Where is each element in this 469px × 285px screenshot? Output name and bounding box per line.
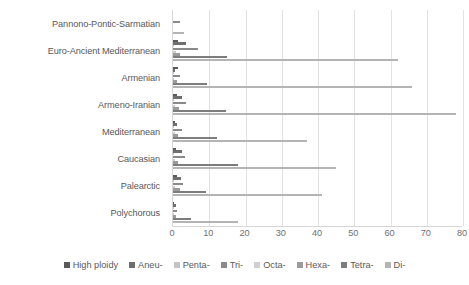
category-label: Euro-Ancient Mediterranean — [0, 37, 166, 64]
x-axis-tick-labels: 01020304050607080 — [172, 228, 462, 244]
bar-row — [173, 221, 463, 223]
bar-group — [173, 10, 463, 37]
bar-row — [173, 59, 463, 61]
x-tick-label: 0 — [169, 228, 174, 238]
legend-label: Hexa- — [306, 260, 331, 270]
x-tick-label: 40 — [312, 228, 322, 238]
legend-label: Penta- — [183, 260, 210, 270]
legend-item[interactable]: Di- — [385, 260, 406, 270]
bar-group — [173, 172, 463, 199]
bar-groups — [173, 10, 463, 226]
category-label: Polychorous — [0, 199, 166, 226]
bar[interactable] — [173, 140, 307, 142]
legend-label: Di- — [394, 260, 406, 270]
plot-wrapper: Pannono-Pontic-SarmatianEuro-Ancient Med… — [0, 0, 469, 240]
gridline — [463, 10, 464, 226]
bar-group — [173, 199, 463, 226]
bar[interactable] — [173, 32, 184, 34]
legend-swatch-icon — [385, 262, 391, 268]
legend-swatch-icon — [129, 262, 135, 268]
legend-label: Tri- — [230, 260, 243, 270]
plot-area — [172, 10, 463, 226]
x-tick-label: 20 — [239, 228, 249, 238]
x-tick-label: 30 — [276, 228, 286, 238]
bar[interactable] — [173, 194, 322, 196]
bar[interactable] — [173, 167, 336, 169]
bar-row — [173, 86, 463, 88]
bar-group — [173, 64, 463, 91]
legend-label: Aneu- — [138, 260, 163, 270]
x-tick-label: 10 — [203, 228, 213, 238]
bar-row — [173, 194, 463, 196]
x-tick-label: 60 — [384, 228, 394, 238]
legend-item[interactable]: High ploidy — [64, 260, 118, 270]
bar[interactable] — [173, 86, 412, 88]
legend-label: High ploidy — [73, 260, 118, 270]
legend-label: Octa- — [263, 260, 285, 270]
legend-swatch-icon — [64, 262, 70, 268]
legend-item[interactable]: Penta- — [174, 260, 210, 270]
legend-item[interactable]: Octa- — [254, 260, 285, 270]
category-label: Pannono-Pontic-Sarmatian — [0, 10, 166, 37]
category-label: Armeno-Iranian — [0, 91, 166, 118]
bar-group — [173, 37, 463, 64]
legend-item[interactable]: Tri- — [221, 260, 243, 270]
category-label: Armenian — [0, 64, 166, 91]
legend-swatch-icon — [341, 262, 347, 268]
category-axis-labels: Pannono-Pontic-SarmatianEuro-Ancient Med… — [0, 10, 166, 226]
x-tick-label: 50 — [348, 228, 358, 238]
bar-group — [173, 91, 463, 118]
x-tick-label: 70 — [421, 228, 431, 238]
legend-swatch-icon — [297, 262, 303, 268]
bar-row — [173, 113, 463, 115]
x-tick-label: 80 — [457, 228, 467, 238]
legend-item[interactable]: Tetra- — [341, 260, 373, 270]
category-label: Caucasian — [0, 145, 166, 172]
legend-swatch-icon — [221, 262, 227, 268]
chart-legend: High ploidyAneu-Penta-Tri-Octa-Hexa-Tetr… — [0, 255, 469, 275]
legend-swatch-icon — [174, 262, 180, 268]
bar-row — [173, 167, 463, 169]
bar-row — [173, 140, 463, 142]
bar[interactable] — [173, 59, 398, 61]
bar[interactable] — [173, 221, 238, 223]
legend-item[interactable]: Aneu- — [129, 260, 163, 270]
bar-chart: Pannono-Pontic-SarmatianEuro-Ancient Med… — [0, 0, 469, 285]
x-axis-line — [172, 226, 462, 227]
category-label: Palearctic — [0, 172, 166, 199]
bar[interactable] — [173, 113, 456, 115]
legend-swatch-icon — [254, 262, 260, 268]
category-label: Mediterranean — [0, 118, 166, 145]
bar-group — [173, 118, 463, 145]
bar-group — [173, 145, 463, 172]
legend-label: Tetra- — [350, 260, 373, 270]
bar-row — [173, 32, 463, 34]
legend-item[interactable]: Hexa- — [297, 260, 331, 270]
